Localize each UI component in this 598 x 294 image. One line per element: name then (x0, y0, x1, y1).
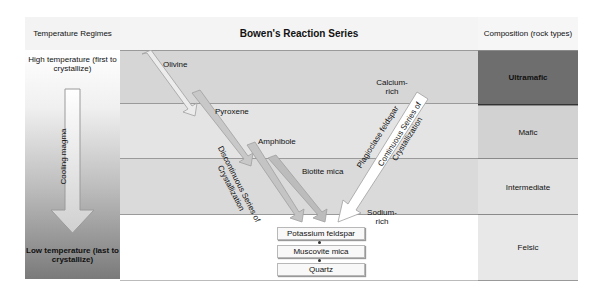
mafic-label: Mafic (518, 128, 537, 137)
mineral-muscovite-mica: Muscovite mica (277, 245, 365, 258)
composition-header-label: Composition (rock types) (484, 29, 572, 38)
composition-ultramafic: Ultramafic (478, 50, 578, 106)
diagram-title: Bowen's Reaction Series (240, 28, 359, 39)
mineral-biotite-mica: Biotite mica (302, 167, 343, 176)
intermediate-label: Intermediate (506, 183, 550, 192)
cooling-magma-label: Cooling magma (59, 128, 68, 184)
connector-dot (318, 241, 321, 244)
mineral-pyroxene: Pyroxene (215, 107, 249, 116)
composition-intermediate: Intermediate (478, 158, 578, 215)
composition-header: Composition (rock types) (478, 17, 578, 50)
mineral-potassium-feldspar: Potassium feldspar (277, 227, 365, 240)
mineral-amphibole: Amphibole (258, 137, 296, 146)
connector-dot (318, 259, 321, 262)
cooling-magma-arrow-icon (25, 85, 120, 235)
composition-felsic: Felsic (478, 214, 578, 281)
sodium-rich-label: Sodium-rich (362, 208, 402, 226)
cooling-magma-label-wrap: Cooling magma (59, 145, 68, 165)
bowens-reaction-series-header: Bowen's Reaction Series (120, 17, 478, 50)
high-temperature-label: High temperature (first to crystallize) (25, 55, 120, 73)
composition-mafic: Mafic (478, 105, 578, 159)
temperature-regimes-label: Temperature Regimes (33, 29, 112, 38)
felsic-label: Felsic (518, 243, 539, 252)
low-temperature-label: Low temperature (last to crystallize) (25, 246, 120, 264)
discontinuous-series-arrows-icon (120, 50, 478, 230)
mineral-quartz: Quartz (277, 263, 365, 276)
ultramafic-label: Ultramafic (508, 73, 547, 82)
mineral-olivine: Olivine (163, 60, 187, 69)
calcium-rich-label: Calcium-rich (372, 78, 412, 96)
temperature-regimes-header: Temperature Regimes (25, 17, 120, 50)
